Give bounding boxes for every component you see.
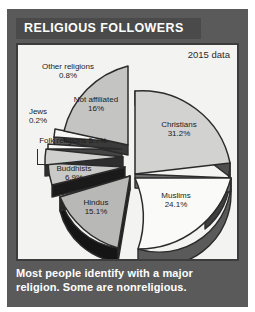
label-muslims: Muslims 24.1% xyxy=(148,192,204,209)
label-christians-name: Christians xyxy=(161,120,197,129)
label-buddhists-name: Buddhists xyxy=(56,164,91,173)
label-buddhists-pct: 6.9% xyxy=(42,174,106,183)
label-buddhists: Buddhists 6.9% xyxy=(42,165,106,182)
label-folk-religions-name1: Folk xyxy=(39,136,54,145)
label-christians: Christians 31.2% xyxy=(148,121,210,138)
label-jews-pct: 0.2% xyxy=(20,117,56,126)
label-folk-religions-name2: religions 5.7% xyxy=(57,136,107,145)
label-folk-religions: Folk religions 5.7% xyxy=(34,137,112,146)
label-not-affiliated-name: Not affiliated xyxy=(74,95,118,104)
label-other-religions-pct: 0.8% xyxy=(40,72,96,81)
label-other-religions-name1: Other xyxy=(42,62,62,71)
page-title: RELIGIOUS FOLLOWERS xyxy=(24,21,184,35)
infographic-poster: RELIGIOUS FOLLOWERS 2015 data xyxy=(7,9,248,307)
label-other-religions-name2: religions xyxy=(64,62,94,71)
caption-line-1: Most people identify with a major xyxy=(16,267,239,281)
pie-slices xyxy=(45,66,231,249)
label-other-religions: Other religions 0.8% xyxy=(40,63,96,80)
label-not-affiliated-pct: 16% xyxy=(63,105,129,114)
label-jews-name: Jews xyxy=(29,107,47,116)
label-hindus-name: Hindus xyxy=(84,198,109,207)
caption: Most people identify with a major religi… xyxy=(16,267,239,300)
label-muslims-pct: 24.1% xyxy=(148,201,204,210)
label-jews: Jews 0.2% xyxy=(20,108,56,125)
label-christians-pct: 31.2% xyxy=(148,130,210,139)
label-not-affiliated: Not affiliated 16% xyxy=(63,96,129,113)
title-bar: RELIGIOUS FOLLOWERS xyxy=(16,18,201,39)
label-hindus-pct: 15.1% xyxy=(70,208,122,217)
chart-card: 2015 data xyxy=(16,43,239,261)
label-muslims-name: Muslims xyxy=(161,191,190,200)
caption-line-2: religion. Some are nonreligious. xyxy=(16,281,239,295)
label-hindus: Hindus 15.1% xyxy=(70,199,122,216)
leader-line-jews-vertical xyxy=(37,149,38,165)
